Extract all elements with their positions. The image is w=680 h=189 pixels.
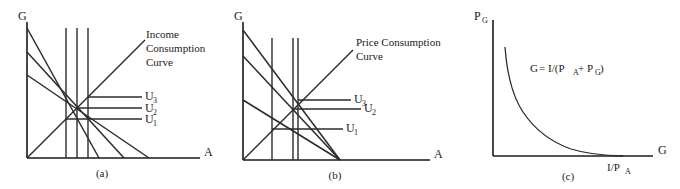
panel-c-y-axis-label-subscript: G [482, 16, 488, 25]
panel-a-curve-label-line-2: Consumption [146, 42, 206, 54]
panel-a-x-axis-label: A [204, 145, 213, 159]
panel-b-curve-label-line-1: Price Consumption [356, 36, 441, 48]
panel-c-x-tick-label: I/P [607, 161, 620, 173]
panel-c-demand-curve: P G G G = I/(P A + P G ) I/P A (c) [455, 0, 680, 189]
panel-c-equation-equals: = [539, 62, 545, 74]
panel-b-curve-label-line-2: Curve [356, 50, 383, 62]
panel-a-svg: G A Income Consumption Curve U 3 U 2 U 1… [0, 0, 225, 189]
panel-b-label-u1-subscript: 1 [354, 128, 358, 137]
panel-a-label-u1-subscript: 1 [153, 119, 157, 128]
panel-c-equation-close: ) [600, 62, 604, 75]
panel-b-y-axis-label: G [234, 9, 243, 23]
panel-a-curve-label-line-1: Income [146, 28, 179, 40]
three-panel-economics-figure: G A Income Consumption Curve U 3 U 2 U 1… [0, 0, 680, 189]
panel-b-svg: G A Price Consumption Curve U 3 U 2 U 1 … [225, 0, 455, 189]
panel-b-x-axis-label: A [434, 147, 443, 161]
panel-c-equation-lhs: G [530, 62, 538, 74]
panel-c-svg: P G G G = I/(P A + P G ) I/P A (c) [455, 0, 680, 189]
panel-c-caption: (c) [562, 170, 575, 183]
panel-c-equation-numerator: I/(P [548, 62, 565, 75]
panel-c-x-tick-label-subscript: A [625, 167, 631, 176]
panel-c-equation-plus: + P [578, 62, 593, 74]
panel-b-budget-line-1 [243, 30, 340, 160]
panel-b-caption: (b) [329, 169, 342, 182]
panel-c-y-axis-label: P [474, 9, 481, 23]
panel-a-curve-label-line-3: Curve [146, 56, 173, 68]
panel-a-budget-line-2 [27, 52, 124, 158]
panel-a-income-consumption-curve [27, 40, 145, 158]
panel-b-price-consumption: G A Price Consumption Curve U 3 U 2 U 1 … [225, 0, 455, 189]
panel-a-income-consumption: G A Income Consumption Curve U 3 U 2 U 1… [0, 0, 225, 189]
panel-a-caption: (a) [96, 167, 109, 180]
panel-b-label-u2-subscript: 2 [372, 108, 376, 117]
panel-a-y-axis-label: G [18, 9, 27, 23]
panel-c-x-axis-label: G [658, 143, 667, 157]
